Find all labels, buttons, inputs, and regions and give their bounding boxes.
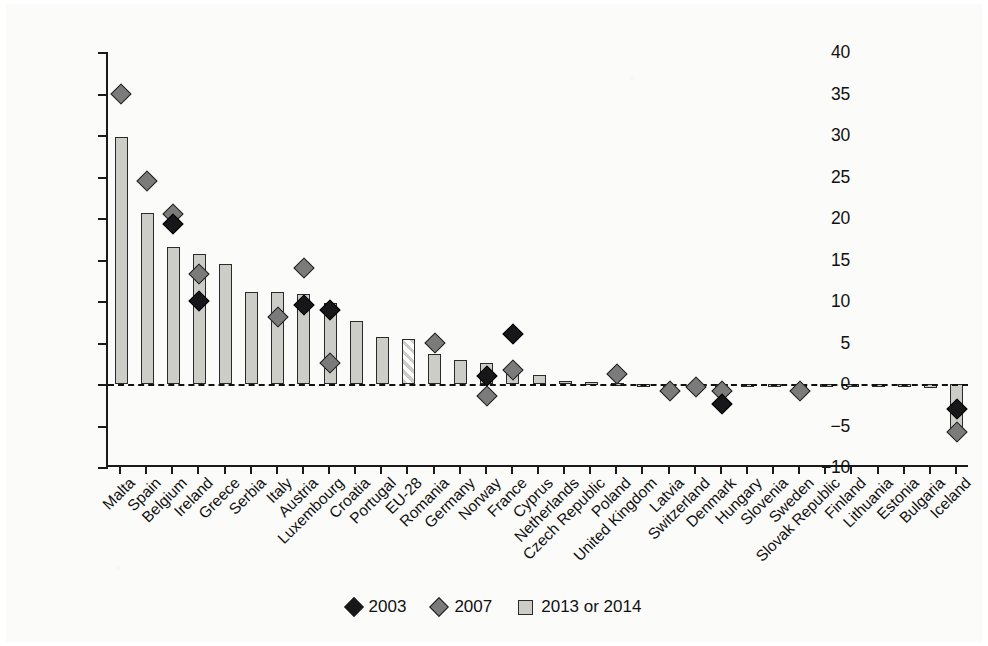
x-tick-mark (668, 467, 670, 474)
legend-label: 2013 or 2014 (541, 597, 641, 617)
x-tick-mark (589, 467, 591, 474)
x-tick-mark (720, 467, 722, 474)
x-tick-mark (354, 467, 356, 474)
x-tick-mark (459, 467, 461, 474)
y-tick-label: 20 (831, 208, 850, 229)
x-tick-mark (380, 467, 382, 474)
x-tick-mark (615, 467, 617, 474)
y-tick-label: 5 (840, 332, 850, 353)
x-tick-mark (798, 467, 800, 474)
data-point-marker (137, 170, 158, 191)
y-tick-mark (98, 426, 108, 428)
legend-diamond-swatch (429, 597, 449, 617)
x-tick-mark (276, 467, 278, 474)
y-tick-mark (98, 260, 108, 262)
bar (141, 213, 154, 384)
x-tick-mark (641, 467, 643, 474)
data-point-marker (110, 83, 131, 104)
y-tick-mark (98, 177, 108, 179)
x-tick-mark (877, 467, 879, 474)
y-tick-label: −5 (830, 415, 850, 436)
chart-legend: 200320072013 or 2014 (0, 597, 988, 617)
x-tick-mark (772, 467, 774, 474)
x-tick-mark (485, 467, 487, 474)
y-tick-label: 25 (831, 166, 850, 187)
x-tick-mark (824, 467, 826, 474)
x-tick-mark (250, 467, 252, 474)
x-tick-mark (328, 467, 330, 474)
y-tick-mark (98, 52, 108, 54)
y-tick-mark (98, 343, 108, 345)
x-tick-mark (302, 467, 304, 474)
y-tick-label: 40 (831, 42, 850, 63)
legend-diamond-swatch (344, 597, 364, 617)
y-tick-mark (98, 384, 108, 386)
x-tick-mark (119, 467, 121, 474)
bar (454, 360, 467, 384)
data-point-marker (502, 324, 523, 345)
data-point-marker (476, 385, 497, 406)
data-point-marker (685, 377, 706, 398)
x-tick-mark (746, 467, 748, 474)
x-tick-mark (406, 467, 408, 474)
y-tick-label: 10 (831, 291, 850, 312)
data-point-marker (424, 332, 445, 353)
zero-line (108, 384, 968, 386)
bar (167, 247, 180, 384)
plot-area: 4035302520151050−5−10 (106, 52, 968, 467)
bar (350, 321, 363, 384)
data-point-marker (293, 257, 314, 278)
legend-item: 2003 (347, 597, 407, 617)
y-tick-mark (98, 301, 108, 303)
x-tick-mark (694, 467, 696, 474)
y-tick-mark (98, 218, 108, 220)
bar (533, 375, 546, 384)
y-tick-mark (98, 467, 108, 469)
x-tick-mark (850, 467, 852, 474)
bar (402, 339, 415, 384)
legend-item: 2007 (432, 597, 492, 617)
x-tick-mark (929, 467, 931, 474)
x-tick-mark (171, 467, 173, 474)
x-tick-mark (955, 467, 957, 474)
data-point-marker (607, 363, 628, 384)
legend-label: 2007 (454, 597, 492, 617)
x-tick-mark (224, 467, 226, 474)
y-tick-label: 15 (831, 249, 850, 270)
chart-figure: Gender gap of people without any pension… (0, 0, 988, 646)
legend-square-swatch (518, 600, 533, 615)
bar (428, 354, 441, 384)
x-tick-mark (537, 467, 539, 474)
y-tick-mark (98, 94, 108, 96)
legend-item: 2013 or 2014 (518, 597, 641, 617)
y-tick-mark (98, 135, 108, 137)
y-tick-label: 35 (831, 83, 850, 104)
x-tick-mark (563, 467, 565, 474)
bar (376, 337, 389, 384)
x-tick-mark (197, 467, 199, 474)
bar (115, 137, 128, 384)
x-tick-mark (433, 467, 435, 474)
x-tick-mark (511, 467, 513, 474)
bar (245, 292, 258, 384)
x-tick-mark (903, 467, 905, 474)
bar (219, 264, 232, 384)
data-point-marker (711, 393, 732, 414)
legend-label: 2003 (369, 597, 407, 617)
y-tick-label: 30 (831, 125, 850, 146)
x-tick-mark (145, 467, 147, 474)
